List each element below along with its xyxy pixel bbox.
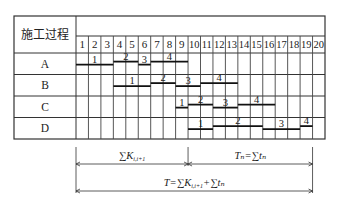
flow-schedule-diagram: 施工过程1234567891011121314151617181920ABCD … <box>0 0 340 210</box>
segment-label: 3 <box>223 97 228 108</box>
day-label: 12 <box>214 39 225 50</box>
segment-label: 3 <box>142 54 147 65</box>
day-label: 11 <box>202 39 212 50</box>
day-label: 9 <box>179 38 185 50</box>
process-name: B <box>41 79 49 91</box>
day-label: 13 <box>226 39 237 50</box>
segment-label: 4 <box>217 72 223 83</box>
segment-label: 1 <box>129 75 134 86</box>
day-label: 8 <box>167 38 173 50</box>
day-label: 15 <box>251 39 262 50</box>
sum-k-label: ∑Ki,i+1 <box>119 150 145 162</box>
tn-label: Tₙ=∑tₙ <box>234 150 266 161</box>
segment-label: 2 <box>235 115 240 126</box>
segment-label: 2 <box>198 94 203 105</box>
day-label: 19 <box>301 39 312 50</box>
segment-label: 2 <box>123 51 128 62</box>
segment-label: 1 <box>92 54 97 65</box>
segment-label: 1 <box>198 118 203 129</box>
day-label: 14 <box>239 39 250 50</box>
day-label: 4 <box>117 38 123 50</box>
process-name: C <box>41 101 49 113</box>
duration-annotations: ∑Ki,i+1Tₙ=∑tₙT=∑Ki,i+1+∑tₙ <box>76 147 313 193</box>
day-label: 3 <box>104 38 110 50</box>
segment-label: 1 <box>179 97 184 108</box>
segment-label: 2 <box>161 72 166 83</box>
day-label: 7 <box>154 38 160 50</box>
day-label: 5 <box>129 38 135 50</box>
segment-label: 4 <box>167 51 173 62</box>
day-label: 2 <box>92 38 98 50</box>
process-name: A <box>41 58 50 70</box>
day-label: 18 <box>289 39 300 50</box>
day-label: 16 <box>264 39 275 50</box>
segment-label: 3 <box>185 75 190 86</box>
segment-label: 4 <box>304 115 310 126</box>
process-name: D <box>41 122 49 134</box>
day-label: 17 <box>276 39 287 50</box>
day-label: 20 <box>314 39 325 50</box>
process-header: 施工过程 <box>21 27 69 42</box>
day-label: 6 <box>142 38 148 50</box>
segment-label: 3 <box>279 118 284 129</box>
day-label: 1 <box>79 38 85 50</box>
day-label: 10 <box>189 39 200 50</box>
total-duration-label: T=∑Ki,i+1+∑tₙ <box>164 177 225 189</box>
segment-label: 4 <box>254 94 260 105</box>
